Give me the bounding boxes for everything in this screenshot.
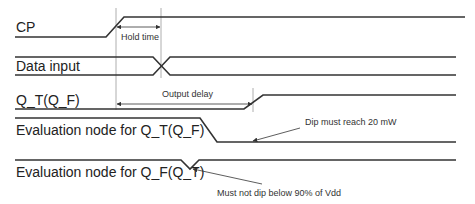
cp-waveform <box>15 17 465 37</box>
signal-eval-q-f: Evaluation node for Q_F(Q_T) Must not di… <box>15 160 456 198</box>
dip-reach-annotation: Dip must reach 20 mW <box>305 117 397 127</box>
signal-data-input: Data input <box>15 57 456 75</box>
output-delay-interval: Output delay <box>117 89 252 104</box>
data-input-waveform-b <box>15 57 456 75</box>
output-delay-label: Output delay <box>162 89 214 99</box>
no-dip-annotation: Must not dip below 90% of Vdd <box>217 188 341 198</box>
hold-time-interval: Hold time <box>117 27 160 42</box>
dip-reach-pointer <box>253 128 300 141</box>
hold-time-label: Hold time <box>121 32 159 42</box>
signal-label-eval-q-f: Evaluation node for Q_F(Q_T) <box>16 164 204 180</box>
q-t-waveform <box>15 95 456 109</box>
signal-q-t: Q_T(Q_F) <box>15 92 456 109</box>
timing-diagram: CP Hold time Data input Output delay Q_T… <box>0 0 475 204</box>
data-input-waveform-a <box>15 57 456 75</box>
signal-label-data-input: Data input <box>16 58 80 74</box>
signal-label-cp: CP <box>16 19 35 35</box>
signal-label-eval-q-t: Evaluation node for Q_T(Q_F) <box>16 122 204 138</box>
signal-cp: CP <box>15 17 465 37</box>
signal-eval-q-t: Evaluation node for Q_T(Q_F) Dip must re… <box>15 117 456 142</box>
signal-label-q-t: Q_T(Q_F) <box>16 92 80 108</box>
